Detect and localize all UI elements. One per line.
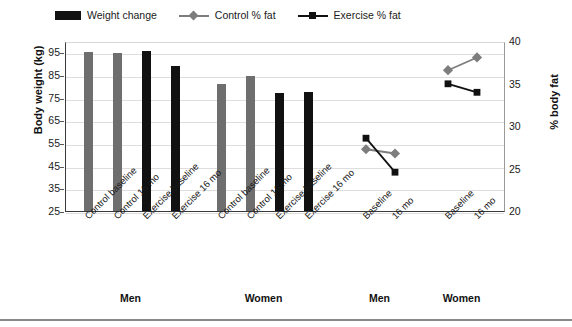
y-tick-label-right: 25 bbox=[509, 164, 535, 175]
figure-bottom-rule bbox=[0, 319, 572, 321]
marker-square: Exercise % fat Women Baseline: 35.2% bbox=[445, 80, 452, 87]
line-segment-exercise-fat-men bbox=[366, 138, 395, 172]
y-tick-label-left: 75 bbox=[34, 93, 60, 104]
y-tick-label-left: 35 bbox=[34, 183, 60, 194]
legend-label: Exercise % fat bbox=[334, 10, 401, 21]
marker-diamond: Control % fat Men Baseline: 27.5% bbox=[361, 144, 371, 154]
marker-diamond: Control % fat Women 16 mo: 38.3% bbox=[472, 52, 482, 62]
y-tick-mark-left bbox=[60, 76, 64, 77]
x-group-label: Men bbox=[350, 292, 410, 304]
y-tick-mark-left bbox=[60, 212, 64, 213]
bar-swatch-icon bbox=[55, 11, 81, 20]
y-axis-right-ticks: 2025303540 bbox=[509, 42, 539, 212]
y-tick-mark-left bbox=[60, 144, 64, 145]
line-segment-control-fat-women bbox=[448, 57, 477, 70]
legend-label: Weight change bbox=[87, 10, 157, 21]
y-tick-label-right: 40 bbox=[509, 36, 535, 47]
legend-label: Control % fat bbox=[215, 10, 276, 21]
line-series-layer: Control % fat Men Baseline: 27.5%Control… bbox=[66, 43, 506, 213]
y-tick-label-left: 85 bbox=[34, 70, 60, 81]
y-tick-mark-left bbox=[60, 189, 64, 190]
y-tick-label-left: 65 bbox=[34, 115, 60, 126]
legend-item-control-fat[interactable]: Control % fat bbox=[179, 10, 276, 21]
marker-square: Exercise % fat Women 16 mo: 34.2% bbox=[474, 89, 481, 96]
y-tick-label-right: 30 bbox=[509, 121, 535, 132]
marker-square: Exercise % fat Men 16 mo: 24.8% bbox=[392, 169, 399, 176]
y-tick-label-right: 35 bbox=[509, 79, 535, 90]
y-tick-label-left: 55 bbox=[34, 138, 60, 149]
x-axis-category-labels: Control baselineControl 16 moExercise ba… bbox=[0, 214, 572, 280]
x-group-label: Women bbox=[432, 292, 492, 304]
chart-figure: Weight change Control % fat Exercise % f… bbox=[0, 0, 572, 327]
chart-legend: Weight change Control % fat Exercise % f… bbox=[55, 6, 401, 24]
x-group-label: Women bbox=[234, 292, 294, 304]
marker-diamond: Control % fat Men 16 mo: 27% bbox=[390, 148, 400, 158]
y-axis-left-ticks: 2535455565758595 bbox=[30, 42, 60, 212]
x-axis-group-labels: MenWomenMenWomen bbox=[0, 292, 572, 308]
y-axis-right-title: % body fat bbox=[548, 42, 560, 162]
line-diamond-icon bbox=[179, 10, 209, 20]
y-tick-mark-left bbox=[60, 53, 64, 54]
marker-diamond: Control % fat Women Baseline: 36.8% bbox=[443, 65, 453, 75]
y-tick-label-left: 95 bbox=[34, 47, 60, 58]
y-tick-mark-left bbox=[60, 99, 64, 100]
line-square-icon bbox=[298, 10, 328, 20]
y-tick-mark-left bbox=[60, 121, 64, 122]
y-tick-label-left: 45 bbox=[34, 161, 60, 172]
x-group-label: Men bbox=[101, 292, 161, 304]
legend-item-exercise-fat[interactable]: Exercise % fat bbox=[298, 10, 401, 21]
legend-item-weight-change[interactable]: Weight change bbox=[55, 10, 157, 21]
line-segment-exercise-fat-women bbox=[448, 84, 477, 93]
marker-square: Exercise % fat Men Baseline: 28.8% bbox=[363, 135, 370, 142]
y-tick-mark-left bbox=[60, 167, 64, 168]
